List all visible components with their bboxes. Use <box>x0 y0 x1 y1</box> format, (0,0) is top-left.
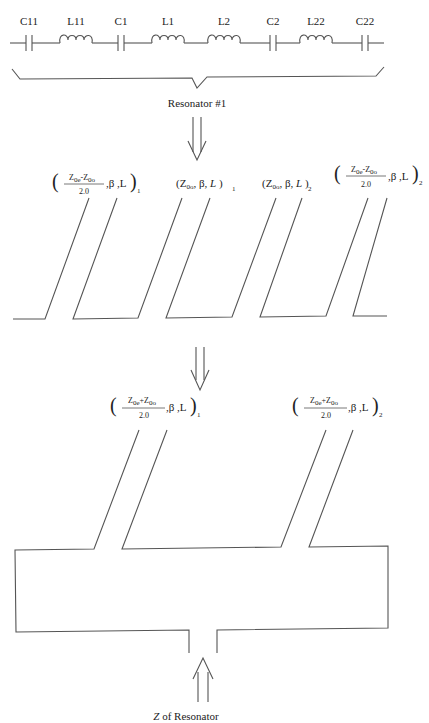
inductor-l2-icon <box>208 35 241 43</box>
svg-text:Z0e+Z0o: Z0e+Z0o <box>310 396 338 407</box>
svg-text:,β ,L: ,β ,L <box>166 401 187 413</box>
svg-text:): ) <box>130 170 137 193</box>
coupled-line-label-2: (Z0o, β, L ) 1 <box>176 177 236 193</box>
label-c22: C22 <box>356 15 374 27</box>
equivalent-outline <box>15 430 189 653</box>
svg-text:Z0e+Z0o: Z0e+Z0o <box>128 396 156 407</box>
coupled-line-2 <box>73 198 182 319</box>
down-arrow-icon <box>188 117 206 160</box>
svg-text:(Z0o, β, L ): (Z0o, β, L ) <box>262 177 309 191</box>
label-l2: L2 <box>218 15 230 27</box>
svg-text:(: ( <box>292 394 299 417</box>
down-arrow-icon <box>191 347 209 390</box>
inductor-l22-icon <box>300 35 333 43</box>
label-c1: C1 <box>115 15 128 27</box>
svg-text:(: ( <box>52 170 59 193</box>
svg-text:2: 2 <box>419 179 423 187</box>
resonator-label: Resonator #1 <box>168 97 226 109</box>
svg-text:(: ( <box>334 162 341 185</box>
coupled-line-label-1: ( Z0e-Z0o 2.0 ,β ,L ) 1 <box>52 170 141 196</box>
capacitor-c11-icon <box>26 35 32 51</box>
label-c2: C2 <box>267 15 280 27</box>
equivalent-label-2: ( Z0e+Z0o 2.0 ,β ,L ) 2 <box>292 394 383 420</box>
svg-text:(: ( <box>110 394 117 417</box>
capacitor-c2-icon <box>270 35 276 51</box>
equivalent-structure <box>15 430 388 653</box>
capacitor-c1-icon <box>118 35 124 51</box>
coupled-line-label-4: ( Z0e-Z0o 2.0 ,β ,L ) 2 <box>334 162 423 189</box>
coupled-line-3 <box>166 198 276 318</box>
svg-text:2: 2 <box>379 411 383 419</box>
inductor-l11-icon <box>60 35 93 43</box>
resonator-diagram: C11 L11 C1 L1 L2 C2 L22 C22 Resonator #1… <box>0 0 429 723</box>
svg-text:): ) <box>190 394 197 417</box>
svg-text:1: 1 <box>197 411 201 419</box>
svg-text:2.0: 2.0 <box>139 411 149 420</box>
label-c11: C11 <box>20 15 38 27</box>
lc-ladder-circuit: C11 L11 C1 L1 L2 C2 L22 C22 <box>10 15 384 51</box>
capacitor-c22-icon <box>362 35 368 51</box>
svg-text:): ) <box>372 394 379 417</box>
svg-text:2: 2 <box>308 185 312 193</box>
up-arrow-icon <box>193 658 213 702</box>
svg-text:Z0e-Z0o: Z0e-Z0o <box>351 165 378 176</box>
svg-text:,β ,L: ,β ,L <box>348 401 369 413</box>
coupled-line-1 <box>13 198 89 319</box>
grouping-brace <box>12 67 384 88</box>
equivalent-label-1: ( Z0e+Z0o 2.0 ,β ,L ) 1 <box>110 394 201 420</box>
svg-text:,β ,L: ,β ,L <box>106 177 127 189</box>
svg-text:(Z0o, β, L ): (Z0o, β, L ) <box>176 177 223 191</box>
svg-text:1: 1 <box>232 185 236 193</box>
coupled-line-label-3: (Z0o, β, L ) 2 <box>262 177 312 193</box>
svg-text:2.0: 2.0 <box>361 180 371 189</box>
svg-text:): ) <box>412 162 419 185</box>
svg-text:2.0: 2.0 <box>321 411 331 420</box>
label-l11: L11 <box>67 15 84 27</box>
svg-text:,β ,L: ,β ,L <box>388 170 409 182</box>
svg-text:1: 1 <box>137 187 141 195</box>
inductor-l1-icon <box>152 35 185 43</box>
coupled-line-sections <box>13 198 387 319</box>
label-l1: L1 <box>162 15 174 27</box>
coupled-line-4 <box>260 198 368 317</box>
input-impedance-label: Z of Resonator <box>153 710 219 722</box>
label-l22: L22 <box>307 15 325 27</box>
coupled-line-5 <box>353 198 387 316</box>
svg-text:Z0e-Z0o: Z0e-Z0o <box>69 173 96 184</box>
svg-text:2.0: 2.0 <box>79 187 89 196</box>
